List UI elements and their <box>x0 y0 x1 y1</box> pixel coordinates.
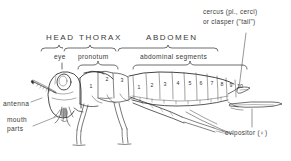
thorax-segment-number-3: 3 <box>121 77 124 83</box>
leader-antenna <box>31 98 42 102</box>
head-detail-lines <box>52 76 76 100</box>
side-label-antenna: antenna <box>3 100 29 108</box>
callout-cercus-line1: cercus (pl., cerci) <box>203 8 257 16</box>
abdominal-segment-number-9: 9 <box>230 82 233 88</box>
region-label-abdomen: ABDOMEN <box>146 33 198 42</box>
region-bracket-head <box>41 45 63 51</box>
side-label-mouth: mouth <box>7 116 27 124</box>
foreleg <box>73 104 88 146</box>
bracket-abdominal-segments <box>133 61 247 69</box>
leader-cercus <box>239 33 246 88</box>
abdominal-segment-number-6: 6 <box>200 80 203 86</box>
sub-label-pronotum: pronotum <box>78 53 109 61</box>
antenna-shape <box>31 80 56 93</box>
callout-ovipositor: ovipositor (♀) <box>225 129 267 137</box>
region-label-head: HEAD <box>46 33 75 42</box>
eye-shape <box>57 74 71 90</box>
region-bracket-abdomen <box>118 45 218 51</box>
ovipositor-shape <box>228 102 282 110</box>
thorax-segment-number-2: 2 <box>106 76 109 82</box>
figure-canvas: HEAD THORAX ABDOMEN eye pronotum abdomin… <box>0 0 291 161</box>
abdominal-segment-number-4: 4 <box>177 80 180 86</box>
midleg <box>114 103 131 145</box>
side-label-parts: parts <box>7 125 23 133</box>
abdominal-segment-number-5: 5 <box>189 80 192 86</box>
abdominal-segment-number-3: 3 <box>164 81 167 87</box>
abdominal-segment-number-1: 1 <box>138 84 141 90</box>
abdominal-segment-number-8: 8 <box>221 81 224 87</box>
region-label-thorax: THORAX <box>79 33 122 42</box>
callout-cercus-line2: or clasper ("tail") <box>203 18 256 26</box>
hindleg-tibia <box>182 117 227 134</box>
sub-label-eye: eye <box>54 53 66 61</box>
bracket-pronotum <box>78 61 118 69</box>
abdominal-segment-number-2: 2 <box>151 82 154 88</box>
region-bracket-thorax <box>64 45 116 51</box>
abdominal-segment-number-7: 7 <box>211 80 214 86</box>
leader-mouthparts <box>33 116 58 126</box>
sub-label-abdominal-segments: abdominal segments <box>140 53 207 61</box>
thorax-segment-number-1: 1 <box>90 83 93 89</box>
abdominal-segment-number-10: 10 <box>237 83 243 89</box>
